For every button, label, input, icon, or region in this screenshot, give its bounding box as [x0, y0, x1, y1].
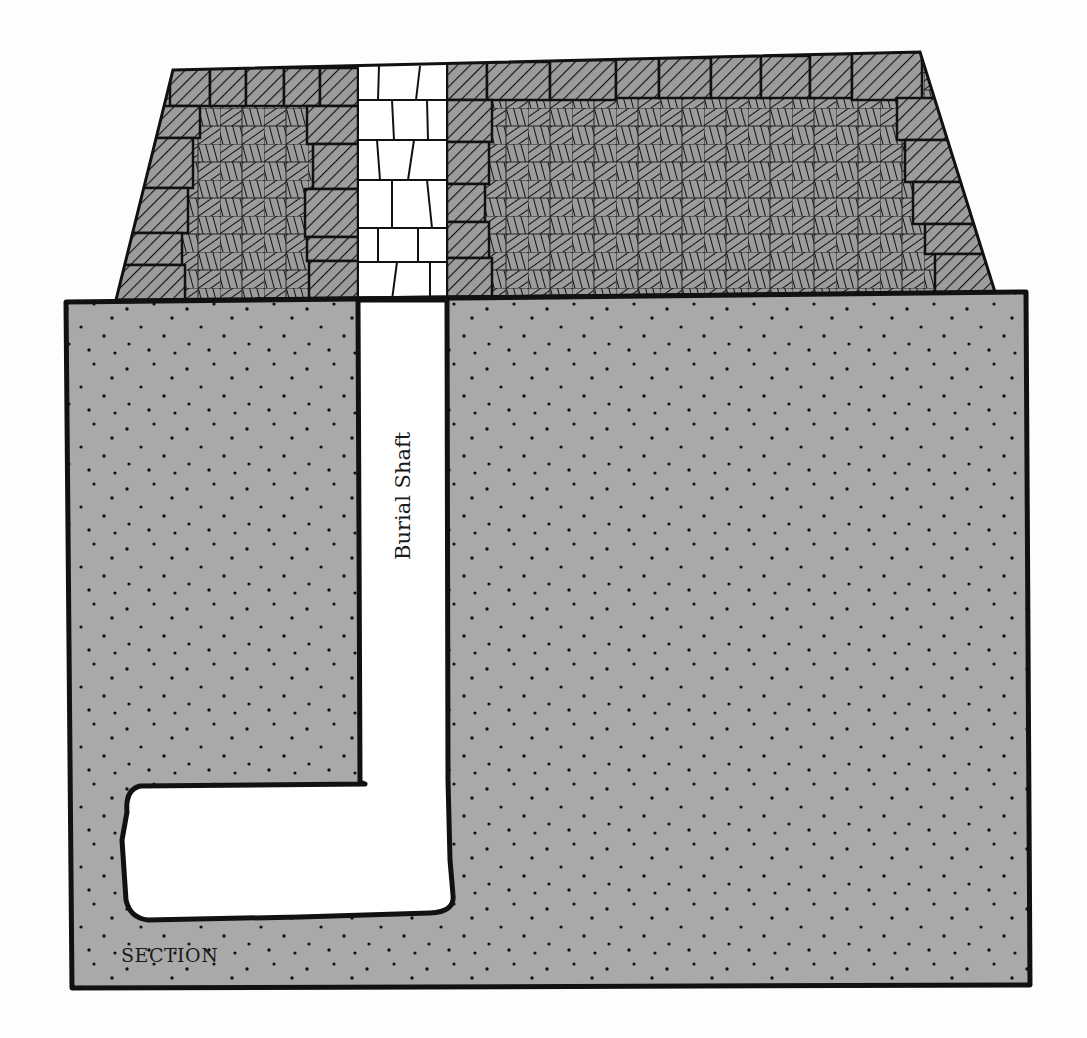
diagram-canvas: Burial Shaft SECTION [0, 0, 1087, 1038]
section-diagram: Burial Shaft SECTION [0, 0, 1087, 1038]
section-label: SECTION [121, 944, 218, 966]
burial-shaft-label: Burial Shaft [391, 431, 415, 560]
shaft-filling-blocks [358, 64, 447, 300]
superstructure [110, 52, 1005, 303]
